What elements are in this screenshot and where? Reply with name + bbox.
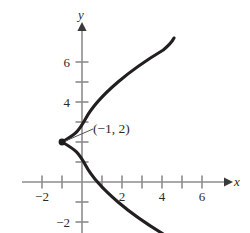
x-axis-label: x bbox=[233, 174, 240, 189]
x-tick-label-6: 6 bbox=[199, 189, 206, 204]
y-tick-label-6: 6 bbox=[64, 55, 71, 70]
x-tick-label--2: −2 bbox=[35, 189, 49, 204]
y-axis-label: y bbox=[76, 7, 84, 22]
x-tick-label-4: 4 bbox=[159, 189, 166, 204]
point-label: (−1, 2) bbox=[93, 121, 130, 136]
graph-figure: x y −2 2 4 6 6 4 −2 (−1, 2) bbox=[0, 0, 250, 233]
y-tick-label--2: −2 bbox=[56, 215, 70, 230]
point-marker-dot bbox=[59, 139, 66, 146]
y-tick-label-4: 4 bbox=[64, 95, 71, 110]
